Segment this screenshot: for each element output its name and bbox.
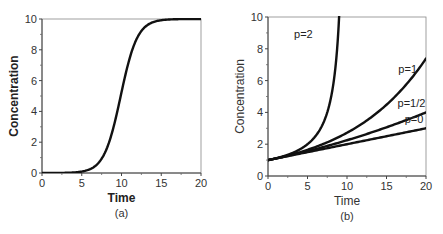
x-tick-label: 20 [195, 177, 207, 189]
x-axis-title: Time [108, 191, 136, 205]
curve-sigmoid [42, 19, 201, 173]
x-tick-label: 5 [304, 180, 310, 192]
curve-label: p=2 [294, 28, 313, 40]
x-tick-label: 15 [380, 180, 392, 192]
y-tick-label: 8 [257, 43, 263, 55]
y-axis-title: Concentration [233, 59, 247, 134]
y-tick-label: 6 [31, 75, 37, 87]
curve-label: p=0 [405, 113, 424, 125]
y-tick-label: 10 [251, 11, 263, 23]
chart-panel-a: 051015200246810TimeConcentration(a) [7, 13, 207, 219]
y-tick-label: 8 [31, 44, 37, 56]
x-tick-label: 15 [155, 177, 167, 189]
panel-caption: (a) [115, 207, 128, 219]
y-tick-label: 4 [257, 106, 263, 118]
x-tick-label: 20 [420, 180, 432, 192]
x-tick-label: 5 [79, 177, 85, 189]
figure: 051015200246810TimeConcentration(a) 0510… [0, 0, 443, 234]
x-tick-label: 0 [265, 180, 271, 192]
y-tick-label: 4 [31, 105, 37, 117]
y-tick-label: 2 [31, 136, 37, 148]
chart-panel-b: 051015200246810TimeConcentration(b)p=2p=… [233, 9, 432, 222]
x-axis-title: Time [334, 194, 361, 208]
panel-caption: (b) [340, 210, 353, 222]
x-tick-label: 0 [39, 177, 45, 189]
y-tick-label: 10 [25, 13, 37, 25]
y-tick-label: 6 [257, 75, 263, 87]
x-tick-label: 10 [115, 177, 127, 189]
y-tick-label: 0 [257, 170, 263, 182]
x-tick-label: 10 [341, 180, 353, 192]
y-tick-label: 2 [257, 138, 263, 150]
y-axis-title: Concentration [7, 55, 21, 136]
y-tick-label: 0 [31, 167, 37, 179]
curve-label: p=1/2 [398, 97, 426, 109]
curve-label: p=1 [398, 63, 417, 75]
